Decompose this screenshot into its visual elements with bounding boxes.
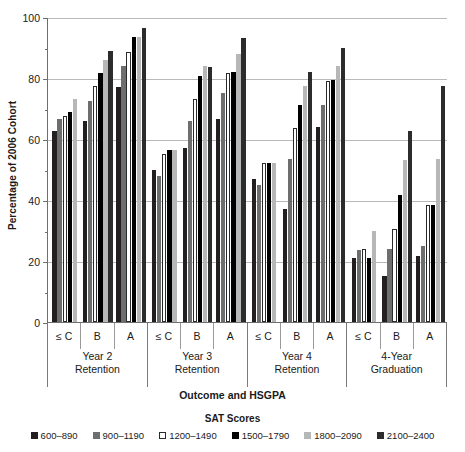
bar bbox=[252, 179, 256, 322]
bar bbox=[193, 99, 197, 322]
outcome-axis-label: Year 3Retention bbox=[148, 349, 248, 387]
legend-item: 1200–1490 bbox=[159, 430, 217, 441]
hsgpa-bar-group bbox=[148, 18, 181, 322]
legend-label: 1200–1490 bbox=[169, 430, 217, 441]
hsgpa-axis: ≤ CBA≤ CBA≤ CBA≤ CBA bbox=[47, 323, 447, 349]
bar bbox=[63, 116, 67, 322]
bar bbox=[188, 121, 192, 322]
bar bbox=[137, 37, 141, 322]
hsgpa-bar-group bbox=[381, 18, 414, 322]
bar bbox=[341, 48, 345, 323]
bar bbox=[293, 128, 297, 322]
bar bbox=[98, 73, 102, 322]
outcome-label-line2: Retention bbox=[274, 363, 319, 376]
chart-figure: Percentage of 2006 Cohort 020406080100 ≤… bbox=[0, 0, 465, 452]
bar bbox=[103, 60, 107, 322]
outcome-label-line1: Year 2 bbox=[82, 350, 112, 363]
bar bbox=[288, 159, 292, 322]
legend-swatch bbox=[31, 432, 38, 439]
bar bbox=[403, 160, 407, 322]
hsgpa-bar-group bbox=[214, 18, 247, 322]
bar bbox=[362, 249, 366, 322]
hsgpa-axis-label: B bbox=[181, 323, 214, 349]
hsgpa-axis-label: A bbox=[314, 323, 346, 349]
y-axis-tick-label: 0 bbox=[34, 317, 40, 329]
hsgpa-bar-group bbox=[115, 18, 148, 322]
legend-label: 600–890 bbox=[41, 430, 78, 441]
plot-area: 020406080100 bbox=[47, 18, 447, 323]
bar bbox=[216, 119, 220, 322]
outcome-group bbox=[248, 18, 348, 322]
bar-series-container bbox=[48, 18, 447, 322]
bar bbox=[73, 99, 77, 322]
outcome-axis-label: Year 4Retention bbox=[248, 349, 348, 387]
y-axis-tick-label: 20 bbox=[28, 256, 40, 268]
bar bbox=[367, 258, 371, 322]
bar bbox=[431, 205, 435, 322]
bar bbox=[68, 112, 72, 322]
hsgpa-bar-group bbox=[347, 18, 380, 322]
y-axis-tick-label: 40 bbox=[28, 195, 40, 207]
hsgpa-bar-group bbox=[314, 18, 347, 322]
hsgpa-axis-label: A bbox=[414, 323, 446, 349]
outcome-label-line2: Retention bbox=[75, 363, 120, 376]
bar bbox=[272, 163, 276, 322]
bar bbox=[392, 229, 396, 322]
plot-frame: 020406080100 bbox=[47, 18, 447, 323]
outcome-axis-label: 4-YearGraduation bbox=[347, 349, 447, 387]
bar bbox=[352, 258, 356, 322]
legend-label: 900–1190 bbox=[103, 430, 145, 441]
bar bbox=[267, 163, 271, 322]
bar bbox=[331, 80, 335, 322]
outcome-label-line1: Year 3 bbox=[182, 350, 212, 363]
hsgpa-bar-group bbox=[414, 18, 447, 322]
hsgpa-bar-group bbox=[248, 18, 281, 322]
outcome-label-line1: 4-Year bbox=[381, 350, 412, 363]
bar bbox=[142, 28, 146, 322]
hsgpa-axis-label: B bbox=[281, 323, 314, 349]
hsgpa-bar-group bbox=[181, 18, 214, 322]
outcome-cell: ≤ CBA bbox=[248, 323, 348, 349]
outcome-label-line1: Year 4 bbox=[282, 350, 312, 363]
legend-swatch bbox=[232, 432, 239, 439]
hsgpa-axis-label: B bbox=[81, 323, 114, 349]
bar bbox=[316, 127, 320, 322]
legend: 600–890900–11901200–14901500–17901800–20… bbox=[0, 430, 465, 441]
bar bbox=[221, 93, 225, 322]
bar bbox=[108, 51, 112, 322]
bar bbox=[357, 250, 361, 322]
hsgpa-axis-label: ≤ C bbox=[48, 323, 81, 349]
bar bbox=[172, 150, 176, 322]
bar bbox=[241, 38, 245, 322]
outcome-label-line2: Retention bbox=[175, 363, 220, 376]
outcome-label-line2: Graduation bbox=[371, 363, 423, 376]
y-axis-tick-label: 80 bbox=[28, 73, 40, 85]
bar bbox=[226, 73, 230, 322]
legend-swatch bbox=[377, 432, 384, 439]
legend-title: SAT Scores bbox=[0, 413, 465, 424]
bar bbox=[416, 256, 420, 322]
outcome-axis-label: Year 2Retention bbox=[47, 349, 148, 387]
legend-swatch bbox=[159, 432, 166, 439]
legend-swatch bbox=[304, 432, 311, 439]
bar bbox=[162, 154, 166, 322]
hsgpa-axis-label: ≤ C bbox=[347, 323, 380, 349]
hsgpa-axis-label: A bbox=[214, 323, 246, 349]
bar bbox=[152, 170, 156, 323]
y-axis-title-text: Percentage of 2006 Cohort bbox=[8, 100, 19, 229]
bar bbox=[321, 105, 325, 322]
hsgpa-bar-group bbox=[81, 18, 114, 322]
bar bbox=[303, 86, 307, 322]
outcome-group bbox=[48, 18, 148, 322]
bar bbox=[198, 76, 202, 322]
bar bbox=[116, 87, 120, 322]
bar bbox=[372, 231, 376, 323]
hsgpa-bar-group bbox=[281, 18, 314, 322]
hsgpa-axis-label: ≤ C bbox=[148, 323, 181, 349]
bar bbox=[167, 150, 171, 322]
bar bbox=[398, 195, 402, 322]
bar bbox=[121, 66, 125, 322]
x-axis-title: Outcome and HSGPA bbox=[0, 389, 465, 401]
legend-item: 2100–2400 bbox=[377, 430, 435, 441]
outcome-cell: ≤ CBA bbox=[148, 323, 248, 349]
